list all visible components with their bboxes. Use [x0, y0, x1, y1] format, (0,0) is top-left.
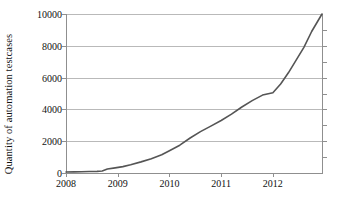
- right-axis-tick-mark: [322, 94, 327, 95]
- right-axis-tick-mark: [322, 30, 327, 31]
- chart-figure: Quantity of automation testcases 0200040…: [0, 0, 338, 208]
- right-axis-tick-mark: [322, 78, 327, 79]
- right-axis-tick-mark: [322, 157, 327, 158]
- right-axis-tick-mark: [322, 141, 327, 142]
- y-axis-tick-mark: [62, 109, 67, 110]
- y-axis-tick-mark: [62, 46, 67, 47]
- y-axis-tick-mark: [62, 78, 67, 79]
- series-line-group: [0, 0, 338, 208]
- y-axis-tick-mark: [62, 14, 67, 15]
- series-line-quantity-of-automation-testcases: [66, 14, 322, 172]
- right-axis-tick-mark: [322, 62, 327, 63]
- right-axis-tick-mark: [322, 46, 327, 47]
- y-axis-tick-mark: [62, 173, 67, 174]
- right-axis-tick-mark: [322, 109, 327, 110]
- y-axis-tick-mark: [62, 141, 67, 142]
- right-axis-tick-mark: [322, 125, 327, 126]
